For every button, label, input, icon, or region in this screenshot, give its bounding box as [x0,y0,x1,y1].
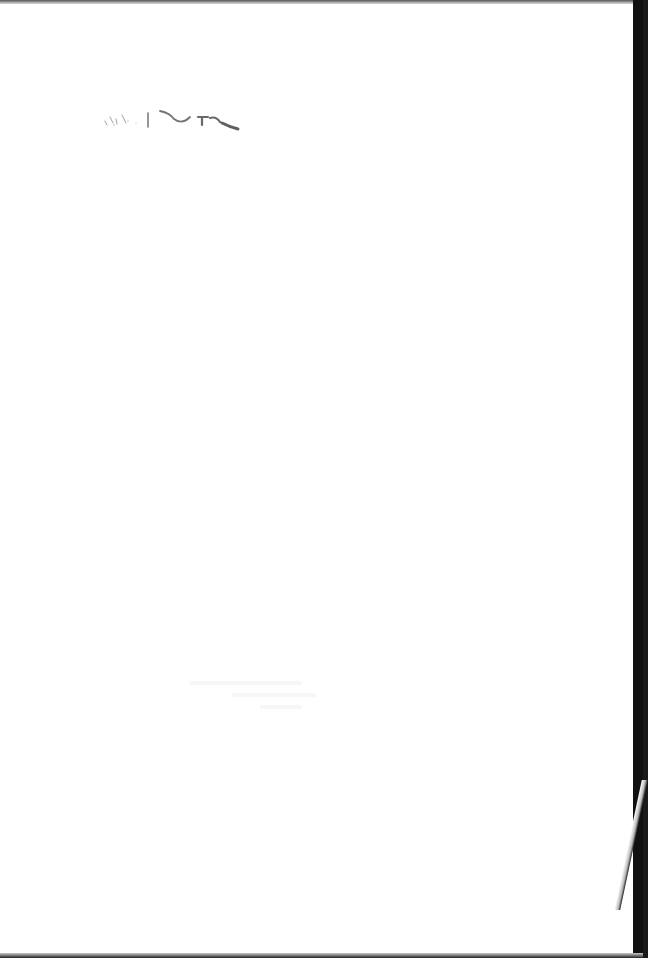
scanned-page [0,3,633,954]
bleed-through [190,673,330,743]
scan-bottom-edge [0,953,643,958]
ink-smudge [100,103,260,133]
scan-top-edge [0,0,643,4]
